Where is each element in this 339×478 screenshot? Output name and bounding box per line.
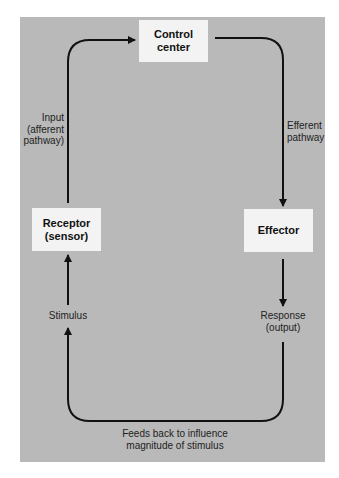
response-line2: (output) [252, 322, 314, 334]
feedback-line2: magnitude of stimulus [100, 440, 250, 452]
control-center-box: Control center [139, 20, 208, 62]
response-label: Response (output) [252, 310, 314, 333]
receptor-line2: (sensor) [43, 230, 91, 243]
receptor-box: Receptor (sensor) [32, 208, 101, 251]
efferent-arrow [215, 38, 283, 206]
efferent-line2: pathway [287, 132, 327, 144]
feedback-line1: Feeds back to influence [100, 428, 250, 440]
response-line1: Response [252, 310, 314, 322]
receptor-line1: Receptor [43, 217, 91, 230]
feedback-label: Feeds back to influence magnitude of sti… [100, 428, 250, 451]
control-center-line2: center [154, 41, 193, 54]
input-line3: pathway) [20, 135, 64, 147]
input-label: Input (afferent pathway) [20, 112, 64, 147]
input-line1: Input [20, 112, 64, 124]
afferent-arrow [68, 40, 135, 203]
efferent-label: Efferent pathway [287, 120, 327, 143]
input-line2: (afferent [20, 124, 64, 136]
control-center-line1: Control [154, 28, 193, 41]
effector-box: Effector [244, 209, 313, 252]
effector-label: Effector [258, 224, 300, 237]
efferent-line1: Efferent [287, 120, 327, 132]
feedback-arrow [68, 328, 283, 421]
stimulus-label: Stimulus [38, 310, 98, 322]
